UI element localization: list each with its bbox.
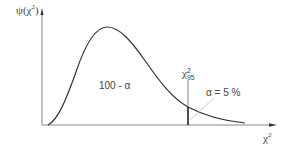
body-area-label: 100 - α [99, 80, 130, 91]
y-axis-label: ψ(χ2) [16, 4, 39, 16]
critical-value-label-sup: 2 [187, 67, 195, 74]
chi-square-chart [0, 0, 289, 148]
y-axis-label-base: ψ(χ [16, 4, 31, 16]
density-curve [48, 27, 245, 125]
x-axis-label-sup: 2 [268, 131, 272, 139]
y-axis-arrow-icon [41, 8, 44, 15]
critical-value-label: χ295 [182, 67, 195, 81]
critical-value-label-sub: 95 [187, 74, 195, 81]
x-axis-arrow-icon [269, 123, 277, 126]
y-axis-label-close: ) [35, 4, 39, 16]
tail-area-label: α = 5 % [206, 87, 240, 98]
x-axis-label: χ2 [263, 132, 271, 144]
